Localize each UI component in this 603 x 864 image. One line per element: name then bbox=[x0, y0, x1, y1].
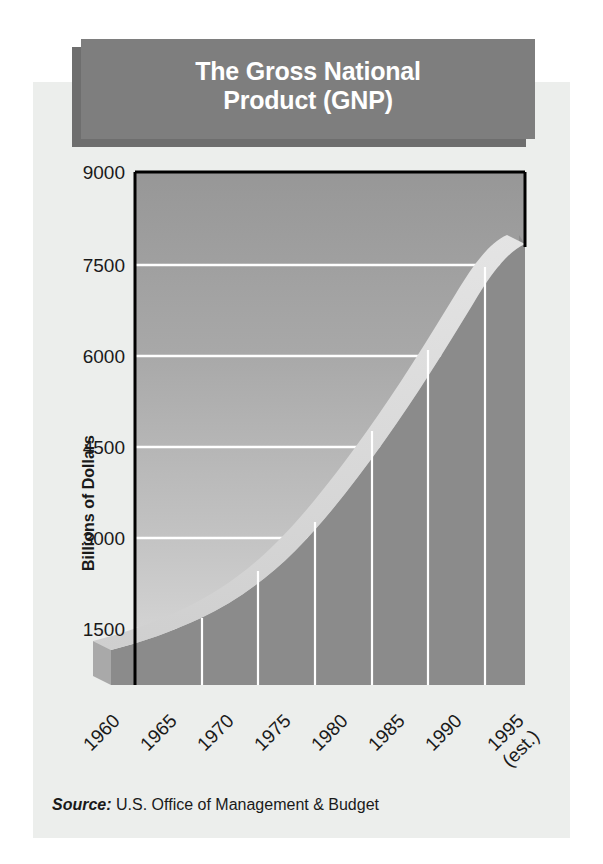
source-label: Source: bbox=[52, 796, 112, 813]
x-tick-1975: 1975 bbox=[250, 710, 295, 755]
x-tick-1965: 1965 bbox=[136, 710, 181, 755]
y-tick-9000: 9000 bbox=[83, 162, 125, 183]
x-tick-1960: 1960 bbox=[79, 710, 124, 755]
y-tick-6000: 6000 bbox=[83, 346, 125, 367]
gnp-area-chart: 9000 7500 6000 4500 3000 1500 1960 1965 … bbox=[33, 82, 570, 838]
y-axis-title: Billions of Dollars bbox=[80, 403, 98, 603]
x-tick-1995-group: 1995 (est.) bbox=[482, 710, 543, 771]
source-note: Source: U.S. Office of Management & Budg… bbox=[52, 796, 379, 814]
source-text: U.S. Office of Management & Budget bbox=[116, 796, 379, 813]
x-axis-tick-labels: 1960 1965 1970 1975 1980 1985 1990 1995 … bbox=[79, 710, 543, 771]
x-tick-1985: 1985 bbox=[364, 710, 409, 755]
x-tick-1990: 1990 bbox=[421, 710, 466, 755]
x-tick-1980: 1980 bbox=[307, 710, 352, 755]
chart-page: The Gross National Product (GNP) bbox=[0, 0, 603, 864]
chart-canvas: 9000 7500 6000 4500 3000 1500 1960 1965 … bbox=[33, 82, 570, 838]
y-tick-1500: 1500 bbox=[83, 619, 125, 640]
y-tick-7500: 7500 bbox=[83, 255, 125, 276]
x-tick-1970: 1970 bbox=[193, 710, 238, 755]
